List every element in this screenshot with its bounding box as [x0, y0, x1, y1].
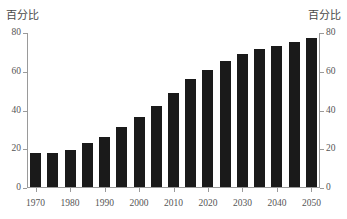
y-tick-label: 60: [12, 67, 22, 77]
y-tick-label: 80: [12, 28, 22, 38]
bar: [202, 70, 213, 187]
bar: [306, 38, 317, 187]
plot-area: 020406080 020406080 19701980199020002010…: [27, 33, 320, 188]
x-tick-label: 2000: [130, 199, 149, 209]
x-tick-mark: [242, 188, 243, 192]
bar: [99, 137, 110, 187]
x-tick-label: 2040: [267, 199, 286, 209]
y-tick-mark: [23, 149, 27, 150]
x-tick-mark: [277, 188, 278, 192]
y2-tick-mark: [320, 111, 324, 112]
left-axis-spine: [27, 33, 28, 188]
x-tick-mark: [174, 188, 175, 192]
x-tick-mark: [36, 188, 37, 192]
left-axis-unit-label: 百分比: [6, 6, 39, 22]
y2-tick-mark: [320, 72, 324, 73]
y2-tick-label: 20: [326, 144, 336, 154]
y-tick-label: 40: [12, 106, 22, 116]
x-tick-label: 1970: [26, 199, 45, 209]
bar: [47, 153, 58, 187]
x-tick-label: 2050: [302, 199, 321, 209]
x-tick-mark: [139, 188, 140, 192]
y2-tick-mark: [320, 149, 324, 150]
x-tick-label: 2030: [233, 199, 252, 209]
x-tick-label: 2010: [164, 199, 183, 209]
bar: [151, 106, 162, 187]
bar-chart-figure: 百分比 百分比 020406080 020406080 197019801990…: [0, 0, 347, 219]
bar: [220, 61, 231, 187]
bar: [168, 93, 179, 187]
bar: [116, 127, 127, 187]
x-tick-label: 1990: [95, 199, 114, 209]
bar: [134, 117, 145, 187]
bar: [237, 54, 248, 187]
x-tick-mark: [105, 188, 106, 192]
y2-tick-label: 60: [326, 67, 336, 77]
y-tick-mark: [23, 111, 27, 112]
y2-tick-mark: [320, 188, 324, 189]
y2-tick-label: 40: [326, 106, 336, 116]
bar: [254, 49, 265, 187]
bar: [271, 46, 282, 187]
bar: [185, 79, 196, 187]
y2-tick-label: 80: [326, 28, 336, 38]
y-tick-label: 20: [12, 144, 22, 154]
x-tick-mark: [70, 188, 71, 192]
y-tick-label: 0: [16, 183, 21, 193]
x-tick-label: 1980: [61, 199, 80, 209]
right-axis-unit-label: 百分比: [308, 6, 341, 22]
x-tick-mark: [311, 188, 312, 192]
bar: [30, 153, 41, 187]
y-tick-mark: [23, 188, 27, 189]
y2-tick-mark: [320, 33, 324, 34]
x-tick-label: 2020: [198, 199, 217, 209]
bar: [65, 150, 76, 187]
bar: [289, 42, 300, 187]
y2-tick-label: 0: [326, 183, 331, 193]
y-tick-mark: [23, 33, 27, 34]
y-tick-mark: [23, 72, 27, 73]
x-tick-mark: [208, 188, 209, 192]
bar: [82, 143, 93, 187]
